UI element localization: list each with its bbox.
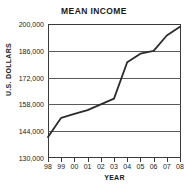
x-axis-title: YEAR	[48, 174, 181, 181]
x-tick-label: 99	[57, 163, 65, 170]
x-tick-label: 07	[163, 163, 171, 170]
y-tick-label: 158,000	[19, 101, 44, 108]
x-tick-label: 03	[110, 163, 118, 170]
x-axis-ticks	[48, 158, 181, 162]
x-tick-label: 02	[97, 163, 105, 170]
x-tick	[61, 158, 62, 162]
y-tick-label: 144,000	[19, 128, 44, 135]
x-tick-label: 00	[70, 163, 78, 170]
x-tick	[180, 158, 181, 162]
x-tick	[154, 158, 155, 162]
x-tick-label: 01	[84, 163, 92, 170]
y-tick-label: 130,000	[19, 155, 44, 162]
y-tick-label: 186,000	[19, 47, 44, 54]
x-tick-label: 04	[123, 163, 131, 170]
y-tick-label: 200,000	[19, 21, 44, 28]
data-series-line	[48, 24, 181, 158]
plot-area	[48, 24, 181, 158]
x-tick	[167, 158, 168, 162]
x-tick-label: 98	[44, 163, 52, 170]
mean-income-line-chart: MEAN INCOME U.S. DOLLARS 200,000 186,000…	[0, 0, 188, 188]
x-axis-tick-labels: 9899000102030405060708	[48, 163, 181, 173]
x-tick	[140, 158, 141, 162]
x-tick	[114, 158, 115, 162]
y-tick-label: 172,000	[19, 74, 44, 81]
x-tick	[127, 158, 128, 162]
x-tick	[101, 158, 102, 162]
x-tick	[74, 158, 75, 162]
x-tick-label: 06	[150, 163, 158, 170]
x-tick-label: 08	[176, 163, 184, 170]
x-tick-label: 05	[136, 163, 144, 170]
x-tick	[48, 158, 49, 162]
x-tick	[88, 158, 89, 162]
y-axis-tick-labels: 200,000 186,000 172,000 158,000 144,000 …	[0, 0, 44, 188]
